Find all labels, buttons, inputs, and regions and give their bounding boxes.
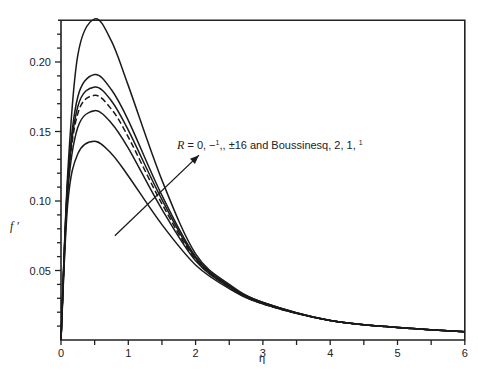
svg-text:R = 0, −1,, ±16 and Boussinesq: R = 0, −1,, ±16 and Boussinesq, 2, 1, 1 [176, 138, 363, 152]
curve-line [61, 87, 465, 340]
x-tick-label: 2 [193, 347, 199, 359]
x-tick-label: 5 [394, 347, 400, 359]
y-tick-label: 0.15 [30, 126, 51, 138]
x-tick-label: 0 [58, 347, 64, 359]
y-axis: 0.050.100.150.20 [30, 34, 61, 326]
annotation-label: R = 0, −1,, ±16 and Boussinesq, 2, 1, 1 [176, 138, 363, 152]
y-tick-label: 0.05 [30, 265, 51, 277]
curve-line [61, 141, 465, 340]
chart: 0.050.100.150.20 0123456 f ′ η R = 0, −1… [0, 0, 478, 381]
curve-line [61, 74, 465, 340]
plot-frame [58, 20, 465, 340]
y-tick-label: 0.10 [30, 195, 51, 207]
y-axis-label: f ′ [10, 219, 19, 233]
curve-line [61, 19, 465, 340]
y-tick-label: 0.20 [30, 56, 51, 68]
x-tick-label: 4 [327, 347, 333, 359]
curves [61, 19, 465, 340]
x-axis-label: η [259, 352, 265, 364]
x-tick-label: 1 [125, 347, 131, 359]
x-tick-label: 6 [462, 347, 468, 359]
